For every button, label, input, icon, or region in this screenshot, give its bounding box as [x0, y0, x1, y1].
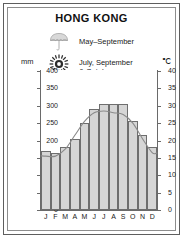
legend-typhoon-label-line1: July, September [79, 58, 133, 67]
temperature-curve [40, 70, 158, 211]
month-label: D [150, 213, 155, 220]
month-label: J [102, 213, 106, 220]
month-label: F [53, 213, 57, 220]
month-label: A [111, 213, 116, 220]
umbrella-icon [48, 32, 70, 52]
right-tick-label: 35 [168, 84, 176, 91]
right-tick-label: 40 [168, 67, 176, 74]
page-title: HONG KONG [4, 12, 179, 24]
month-label: M [62, 213, 68, 220]
climate-card: HONG KONG May–Septem [3, 3, 180, 235]
right-tick-label: 0 [168, 206, 172, 213]
month-label: J [44, 213, 48, 220]
left-axis-unit: mm [21, 57, 34, 66]
right-axis-unit: ℃ [162, 57, 171, 66]
climate-plot: 050100150200250300350400 051015202530354… [40, 70, 158, 211]
month-label: S [121, 213, 126, 220]
right-tick-label: 10 [168, 171, 176, 178]
month-label: N [140, 213, 145, 220]
legend-rain-season: May–September [79, 37, 134, 46]
month-label: A [72, 213, 77, 220]
month-label: J [92, 213, 96, 220]
right-tick-label: 20 [168, 137, 176, 144]
right-tick-label: 15 [168, 154, 176, 161]
right-tick-label: 25 [168, 119, 176, 126]
legend-rain-label: May–September [79, 37, 134, 46]
right-tick-label: 5 [168, 189, 172, 196]
month-label: O [130, 213, 135, 220]
month-label: M [82, 213, 88, 220]
right-tick-label: 30 [168, 102, 176, 109]
